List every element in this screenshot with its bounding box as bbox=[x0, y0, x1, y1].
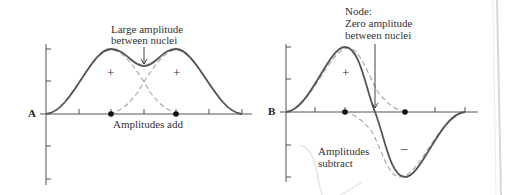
panel-b-arrow bbox=[372, 44, 378, 108]
page-edge-inner bbox=[493, 0, 496, 195]
panel-b-nucleus-right bbox=[402, 109, 408, 115]
panel-a-annotation-top-2: between nuclei bbox=[111, 34, 177, 46]
panel-b-annotation-bottom-2: subtract bbox=[318, 157, 353, 169]
panel-a-sign-right: + bbox=[173, 65, 180, 81]
panel-b-annotation-bottom-1: Amplitudes bbox=[318, 145, 369, 157]
panel-b-letter: B bbox=[268, 105, 275, 117]
panel-b-sign-minus: – bbox=[401, 140, 408, 156]
panel-a-nucleus-right bbox=[173, 111, 179, 117]
panel-b-sign-plus: + bbox=[342, 65, 349, 81]
panel-a-arrow bbox=[141, 47, 147, 64]
panel-b-annotation-top-1: Node: bbox=[345, 5, 372, 17]
panel-a-letter: A bbox=[28, 107, 36, 119]
panel-b-nucleus-left bbox=[342, 109, 348, 115]
page-edge bbox=[497, 0, 501, 195]
panel-b-annotation-top-2: Zero amplitude bbox=[345, 17, 413, 29]
decorative-faint-curve-2 bbox=[340, 182, 362, 195]
panel-a-sign-left: + bbox=[107, 65, 114, 81]
panel-b-annotation-top-3: between nuclei bbox=[345, 29, 411, 41]
panel-a-annotation-bottom: Amplitudes add bbox=[113, 118, 183, 130]
panel-b-axes bbox=[280, 44, 478, 182]
diagram-canvas bbox=[0, 0, 505, 195]
panel-a-nucleus-left bbox=[108, 111, 114, 117]
